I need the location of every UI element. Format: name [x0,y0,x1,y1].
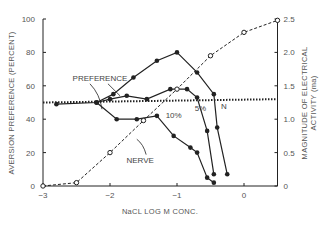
data-point [185,87,190,92]
annotation-5-: 5% [195,104,207,113]
data-point [141,118,145,122]
y2-tick-label: 0 [284,182,289,191]
annotation-nerve: NERVE [126,156,153,165]
y2-tick-label: 2.5 [284,15,296,24]
y2-tick-label: 2.0 [284,48,296,57]
annotation-preference: PREFERENCE [73,74,128,83]
x-tick-label: −3 [38,191,48,200]
chart: −3−2−1002040608010000.51.01.52.02.5 NaCL… [0,0,329,229]
data-point [275,18,279,22]
x-axis-title: NaCL LOG M CONC. [122,207,198,216]
data-point [124,94,129,99]
y2-tick-label: 1.5 [284,82,296,91]
data-point [195,95,200,100]
x-tick-label: −1 [172,191,182,200]
y-tick-label: 20 [26,149,35,158]
data-point [215,125,220,130]
data-point [212,172,217,177]
annotation-10-: 10% [166,111,182,120]
data-point [168,87,173,92]
y-axis-title: AVERSION PREFERENCE (PERCENT) [7,31,16,174]
data-point [225,172,230,177]
series-layer [41,18,280,188]
y-tick-label: 60 [26,82,35,91]
data-point [111,92,116,97]
data-point [212,180,217,185]
data-point [155,114,160,119]
data-point [175,87,179,91]
data-point [171,134,176,139]
y2-tick-label: 1.0 [284,115,296,124]
y2-tick-label: 0.5 [284,149,296,158]
data-point [205,175,210,180]
data-point [155,58,160,63]
data-point [74,180,78,184]
y2-axis-title-line1: MAGNITUDE OF ELECTRICAL [300,47,309,160]
series-10- [94,100,216,185]
y2-axis-title-line2: ACTIVITY (ma) [309,75,318,130]
series-line-5- [97,89,214,174]
nerve-leader-line [137,139,146,154]
data-point [208,54,212,58]
annotation-n: N [221,102,227,111]
y-tick-label: 40 [26,115,35,124]
series-baseline [43,99,278,102]
data-point [175,50,180,55]
data-point [131,75,136,80]
y-tick-label: 100 [22,15,36,24]
axes: −3−2−1002040608010000.51.01.52.02.5 [22,15,296,200]
data-point [212,92,217,97]
data-point [108,150,112,154]
data-point [205,129,210,134]
data-point [135,117,140,122]
series-line-baseline [43,99,278,102]
data-point [188,145,193,150]
data-point [242,30,246,34]
x-tick-label: −2 [105,191,115,200]
data-point [41,184,45,188]
x-tick-label: 0 [242,191,247,200]
data-point [114,117,119,122]
data-point [195,150,200,155]
y-tick-label: 0 [31,182,36,191]
y-tick-label: 80 [26,48,35,57]
